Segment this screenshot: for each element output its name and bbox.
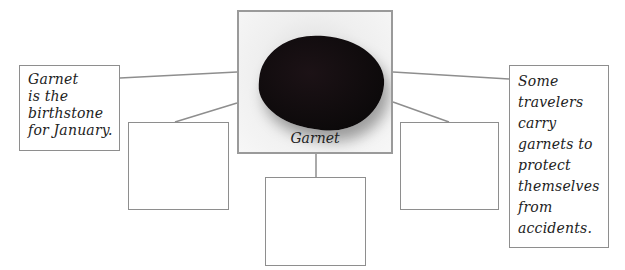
empty-box-mid-right[interactable] (400, 122, 499, 210)
empty-box-mid-left[interactable] (128, 122, 229, 210)
fact-box-top-right: Some travelers carry garnets to protect … (509, 65, 609, 248)
fact-text: Some travelers carry garnets to protect … (510, 66, 608, 239)
center-caption: Garnet (239, 130, 391, 146)
fact-text (129, 123, 228, 128)
garnet-stone-image (256, 32, 387, 134)
fact-text (401, 123, 498, 128)
fact-box-top-left: Garnet is the birthstone for January. (19, 65, 120, 151)
fact-text (266, 178, 365, 183)
fact-text: Garnet is the birthstone for January. (20, 66, 119, 139)
empty-box-bottom-center[interactable] (265, 177, 366, 266)
center-photo-garnet: Garnet (237, 10, 393, 154)
